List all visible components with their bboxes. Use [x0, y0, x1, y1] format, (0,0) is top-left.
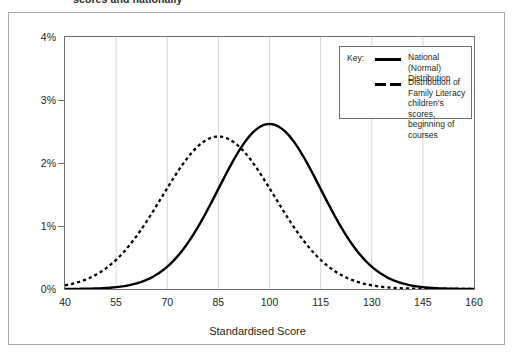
- x-axis-tick-label: 115: [306, 296, 336, 308]
- chart-legend: Key: National (Normal) Distribution Dist…: [339, 46, 472, 119]
- legend-key-label: Key:: [347, 53, 364, 63]
- x-axis-tick-label: 145: [408, 296, 438, 308]
- chart-figure: scores and nationally Percentage 0%1%2%3…: [0, 0, 515, 353]
- solid-line-swatch: [374, 54, 402, 65]
- x-axis-tick-label: 70: [152, 296, 182, 308]
- y-axis-tick-label: 4%: [22, 32, 56, 42]
- legend-entry-family-literacy: Distribution of Family Literacy children…: [374, 77, 471, 140]
- x-axis-tick-label: 85: [203, 296, 233, 308]
- clipped-caption-text: scores and nationally: [73, 0, 182, 5]
- x-axis-tick-label: 130: [357, 296, 387, 308]
- x-axis-tick-label: 100: [255, 296, 285, 308]
- legend-entry-family-literacy-label: Distribution of Family Literacy children…: [408, 77, 471, 140]
- y-axis-tick-label: 2%: [22, 158, 56, 168]
- y-axis-tick-label: 3%: [22, 95, 56, 105]
- x-axis-tick-label: 40: [50, 296, 80, 308]
- x-axis-tick-label: 55: [101, 296, 131, 308]
- y-axis-tick-label: 0%: [22, 284, 56, 294]
- plot-area: Key: National (Normal) Distribution Dist…: [64, 36, 475, 290]
- y-axis-tick-label: 1%: [22, 221, 56, 231]
- x-axis-tick-label: 160: [459, 296, 489, 308]
- dashed-line-swatch: [374, 79, 402, 90]
- x-axis-title: Standardised Score: [0, 325, 515, 337]
